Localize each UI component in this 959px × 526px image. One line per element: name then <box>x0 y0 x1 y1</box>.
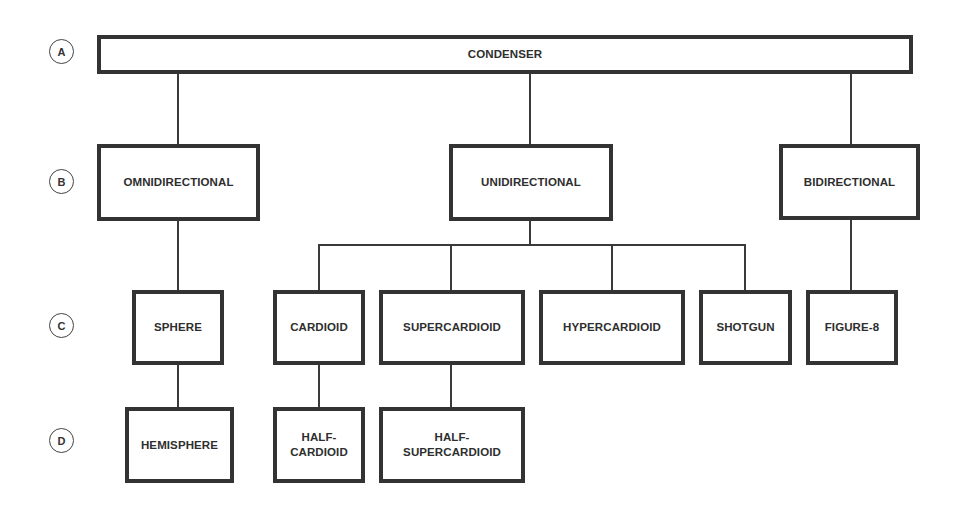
connector-unidirectional-shotgun <box>744 244 746 291</box>
node-supercardioid: SUPERCARDIOID <box>379 290 525 365</box>
connector-unidirectional-cardioid <box>318 244 320 291</box>
connector-sphere-hemisphere <box>177 363 179 408</box>
node-hypercardioid: HYPERCARDIOID <box>539 290 685 365</box>
node-half-supercardioid: HALF- SUPERCARDIOID <box>379 407 525 483</box>
level-marker-c: C <box>49 313 74 338</box>
connector-unidirectional-trunk <box>529 219 531 245</box>
connector-condenser-omnidirectional <box>177 73 179 145</box>
connector-condenser-unidirectional <box>529 73 531 145</box>
node-cardioid: CARDIOID <box>273 290 365 365</box>
node-omnidirectional: OMNIDIRECTIONAL <box>97 144 260 221</box>
connector-unidirectional-hypercardioid <box>611 244 613 291</box>
node-figure8: FIGURE-8 <box>806 290 898 365</box>
connector-bidirectional-figure8 <box>850 219 852 291</box>
node-label: SPHERE <box>154 320 202 335</box>
level-marker-b: B <box>49 169 74 194</box>
node-label: HALF- CARDIOID <box>290 430 348 460</box>
node-label: FIGURE-8 <box>825 320 879 335</box>
connector-condenser-bidirectional <box>850 73 852 145</box>
node-unidirectional: UNIDIRECTIONAL <box>449 144 613 221</box>
node-label: OMNIDIRECTIONAL <box>123 175 233 190</box>
level-marker-d: D <box>49 428 74 453</box>
node-label: BIDIRECTIONAL <box>804 175 895 190</box>
node-bidirectional: BIDIRECTIONAL <box>779 144 920 220</box>
node-label: UNIDIRECTIONAL <box>481 175 581 190</box>
node-hemisphere: HEMISPHERE <box>125 407 234 483</box>
node-label: CONDENSER <box>468 47 542 62</box>
node-label: HALF- SUPERCARDIOID <box>403 430 501 460</box>
node-label: HEMISPHERE <box>141 438 218 453</box>
node-condenser: CONDENSER <box>97 35 913 74</box>
node-shotgun: SHOTGUN <box>699 290 792 365</box>
connector-supercardioid-half-supercardioid <box>450 363 452 408</box>
connector-unidirectional-bus <box>318 244 746 246</box>
node-label: SHOTGUN <box>716 320 774 335</box>
node-label: SUPERCARDIOID <box>403 320 501 335</box>
connector-cardioid-half-cardioid <box>318 363 320 408</box>
connector-omnidirectional-sphere <box>177 219 179 291</box>
node-label: CARDIOID <box>290 320 348 335</box>
connector-unidirectional-supercardioid <box>450 244 452 291</box>
node-sphere: SPHERE <box>132 290 224 365</box>
node-half-cardioid: HALF- CARDIOID <box>273 407 365 483</box>
level-marker-a: A <box>49 39 74 64</box>
node-label: HYPERCARDIOID <box>563 320 661 335</box>
